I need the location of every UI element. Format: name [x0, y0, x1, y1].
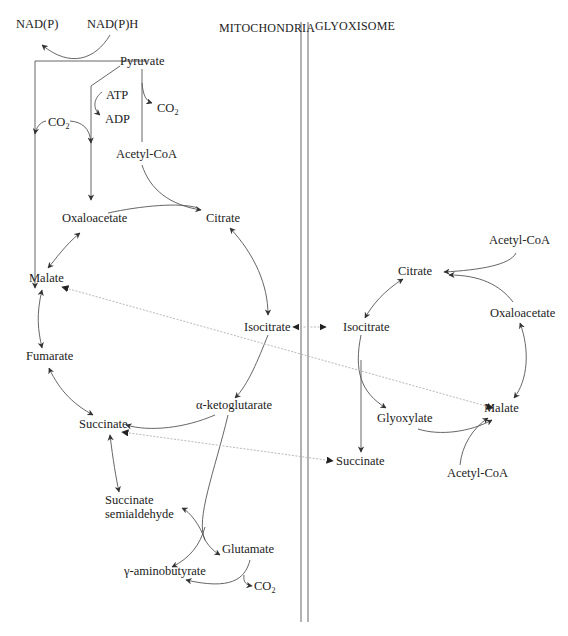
citrate-glyox-label: Citrate — [398, 265, 432, 278]
adp-label: ADP — [105, 113, 130, 126]
nadph-label: NAD(P)H — [87, 18, 138, 31]
oxaloacetate-mito-label: Oxaloacetate — [62, 212, 127, 225]
succinate-semialdehyde-label-1: Succinate — [105, 494, 154, 507]
citrate-mito-label: Citrate — [206, 212, 240, 225]
acetyl-coa-glyox-top-label: Acetyl-CoA — [489, 234, 550, 247]
acetyl-coa-mito-label: Acetyl-CoA — [116, 148, 177, 161]
pyruvate-label: Pyruvate — [120, 55, 164, 68]
malate-mito-label: Malate — [29, 272, 64, 285]
fumarate-label: Fumarate — [26, 350, 73, 363]
succinate-semialdehyde-label-2: semialdehyde — [105, 508, 174, 521]
oxaloacetate-glyox-label: Oxaloacetate — [490, 307, 555, 320]
glyoxylate-label: Glyoxylate — [377, 412, 433, 425]
acetyl-coa-glyox-bottom-label: Acetyl-CoA — [447, 467, 508, 480]
co2-glutamate-label: CO2 — [254, 580, 275, 595]
atp-label: ATP — [106, 89, 128, 102]
compartment-glyoxisome: GLYOXISOME — [315, 20, 395, 32]
co2-left-label: CO2 — [48, 116, 69, 131]
compartment-mitochondria: MITOCHONDRIA — [219, 22, 315, 34]
glutamate-label: Glutamate — [222, 543, 274, 556]
succinate-glyox-label: Succinate — [336, 455, 385, 468]
isocitrate-mito-label: Isocitrate — [244, 321, 291, 334]
co2-pyruvate-label: CO2 — [157, 102, 178, 117]
gaba-label: γ-aminobutyrate — [124, 565, 206, 578]
nadp-label: NAD(P) — [16, 18, 58, 31]
glyoxylate-cycle-diagram: MITOCHONDRIA GLYOXISOME NAD(P) NAD(P)H P… — [0, 0, 568, 636]
malate-glyox-label: Malate — [484, 402, 519, 415]
isocitrate-glyox-label: Isocitrate — [343, 321, 390, 334]
pathway-arrows — [0, 0, 568, 636]
succinate-mito-label: Succinate — [79, 418, 128, 431]
alpha-ketoglutarate-label: α-ketoglutarate — [196, 399, 272, 412]
